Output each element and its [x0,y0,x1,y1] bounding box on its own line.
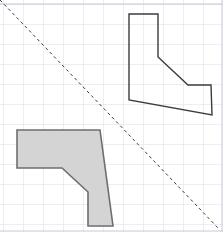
reflection-figure [0,0,223,232]
diagram-canvas [0,0,223,232]
